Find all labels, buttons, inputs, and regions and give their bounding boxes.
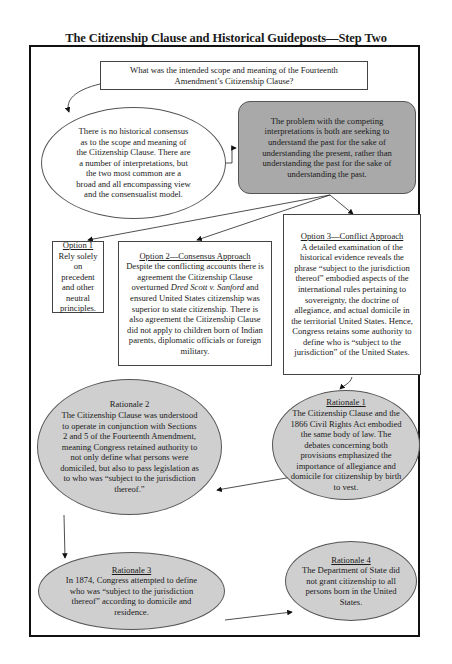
rationale-3-heading: Rationale 3 bbox=[112, 565, 151, 576]
rationale-2-heading: Rationale 2 bbox=[110, 399, 149, 410]
option-3-box: Option 3—Conflict Approach A detailed ex… bbox=[283, 214, 421, 375]
option-1-text: Rely solely on precedent and other neutr… bbox=[57, 251, 99, 315]
rationale-3-ellipse: Rationale 3 In 1874, Congress attempted … bbox=[38, 552, 225, 630]
option-2-heading: Option 2—Consensus Approach bbox=[139, 251, 250, 262]
problem-box: The problem with the competing interpret… bbox=[238, 101, 416, 194]
option-3-text: A detailed examination of the historical… bbox=[290, 242, 414, 359]
option-1-box: Option 1 Rely solely on precedent and ot… bbox=[52, 241, 104, 313]
rationale-3-text: In 1874, Congress attempted to define wh… bbox=[59, 575, 204, 617]
option-1-heading: Option 1 bbox=[63, 240, 93, 251]
diagram-title: The Citizenship Clause and Historical Gu… bbox=[0, 31, 452, 46]
rationale-1-ellipse: Rationale 1 The Citizenship Clause and t… bbox=[272, 390, 420, 500]
option-2-text-after: and ensured United States citizenship wa… bbox=[127, 282, 263, 356]
no-consensus-ellipse: There is no historical consensus as to t… bbox=[41, 107, 226, 219]
rationale-1-text: The Citizenship Clause and the 1866 Civi… bbox=[287, 408, 405, 493]
option-2-text: Despite the conflicting accounts there i… bbox=[125, 261, 265, 356]
option-3-heading: Option 3—Conflict Approach bbox=[301, 231, 404, 242]
rationale-4-ellipse: Rationale 4 The Department of State did … bbox=[285, 541, 417, 621]
question-text: What was the intended scope and meaning … bbox=[107, 65, 361, 86]
question-box: What was the intended scope and meaning … bbox=[100, 61, 368, 90]
option-2-case-name: Dred Scott v. Sanford bbox=[171, 282, 244, 292]
rationale-1-heading: Rationale 1 bbox=[326, 397, 365, 408]
problem-text: The problem with the competing interpret… bbox=[249, 116, 405, 180]
no-consensus-text: There is no historical consensus as to t… bbox=[76, 126, 191, 200]
rationale-4-text: The Department of State did not grant ci… bbox=[298, 565, 404, 607]
rationale-2-ellipse: Rationale 2 The Citizenship Clause was u… bbox=[37, 379, 222, 515]
rationale-2-text: The Citizenship Clause was understood to… bbox=[60, 410, 199, 495]
rationale-4-heading: Rationale 4 bbox=[331, 555, 370, 566]
option-2-box: Option 2—Consensus Approach Despite the … bbox=[118, 241, 272, 366]
